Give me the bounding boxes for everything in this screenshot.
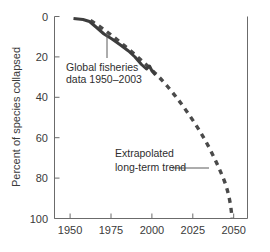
y-axis-title: Percent of species collapsed	[10, 47, 22, 187]
y-tick-label-40: 40	[36, 91, 48, 103]
plot-frame	[55, 17, 248, 219]
trend-annotation-line-1: Extrapolated	[115, 147, 174, 159]
y-tick-label-20: 20	[36, 51, 48, 63]
trend-annotation-line-2: long-term trend	[115, 161, 186, 173]
x-tick-label-2050: 2050	[221, 224, 245, 236]
x-tick-label-2000: 2000	[140, 224, 164, 236]
y-tick-label-60: 60	[36, 132, 48, 144]
x-tick-labels: 1950 1975 2000 2025 2050	[58, 224, 246, 236]
x-tick-label-1950: 1950	[58, 224, 82, 236]
y-tick-label-80: 80	[36, 172, 48, 184]
x-tick-marks	[70, 214, 234, 219]
chart-figure: 0 20 40 60 80 100 1950 1975 2000 2025 20…	[0, 0, 270, 252]
y-tick-label-100: 100	[30, 213, 48, 225]
data-annotation-line-1: Global fisheries	[66, 61, 138, 73]
x-tick-label-1975: 1975	[99, 224, 123, 236]
series-extrapolated-trend	[91, 21, 233, 219]
y-tick-labels: 0 20 40 60 80 100	[30, 11, 48, 225]
y-tick-label-0: 0	[42, 11, 48, 23]
y-tick-marks	[55, 17, 60, 219]
trend-annotation: Extrapolated long-term trend	[115, 147, 209, 173]
data-annotation-line-2: data 1950–2003	[66, 73, 142, 85]
x-tick-label-2025: 2025	[181, 224, 205, 236]
data-annotation: Global fisheries data 1950–2003	[66, 33, 142, 85]
